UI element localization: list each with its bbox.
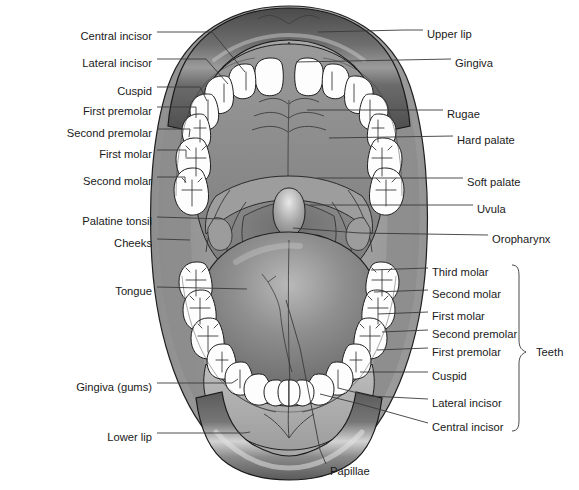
mouth-illustration [151,6,428,480]
label-first-premolar-upper: First premolar [83,105,152,117]
label-lateral-incisor-upper: Lateral incisor [82,57,152,69]
label-central-incisor-lower: Central incisor [432,421,504,433]
label-uvula: Uvula [477,203,506,215]
label-second-premolar-lower: Second premolar [432,328,517,340]
label-upper-lip: Upper lip [427,28,472,40]
label-lower-lip: Lower lip [107,431,152,443]
label-first-premolar-lower: First premolar [432,346,501,358]
label-central-incisor-upper: Central incisor [80,30,152,42]
tooth-upper-second-molar-right [369,168,404,215]
label-papillae: Papillae [330,465,370,477]
label-first-molar-lower: First molar [432,310,485,322]
label-soft-palate: Soft palate [467,176,521,188]
teeth-bracket [512,265,526,431]
tooth-upper-central-incisor-right [295,58,324,96]
label-cheeks: Cheeks [114,237,152,249]
tooth-upper-second-molar-left [174,168,209,215]
label-oropharynx: Oropharynx [492,233,551,245]
tooth-upper-central-incisor-left [255,58,284,96]
label-cuspid-upper: Cuspid [117,85,152,97]
label-gingiva: Gingiva [455,57,494,69]
labels-left-text: Central incisor Lateral incisor Cuspid F… [67,30,153,443]
label-palatine-tonsil: Palatine tonsil [82,215,152,227]
label-second-premolar-upper: Second premolar [67,127,152,139]
labels-right-text: Upper lip Gingiva Rugae Hard palate Soft… [427,28,551,433]
label-tongue: Tongue [115,285,152,297]
label-rugae: Rugae [447,108,480,120]
label-gingiva-gums: Gingiva (gums) [76,381,152,393]
label-first-molar-upper: First molar [99,148,152,160]
label-cuspid-lower: Cuspid [432,370,467,382]
oral-cavity-diagram: Central incisor Lateral incisor Cuspid F… [0,0,579,490]
label-teeth-bracket: Teeth [536,346,563,358]
label-third-molar-lower: Third molar [432,266,489,278]
label-hard-palate: Hard palate [457,134,515,146]
label-lateral-incisor-lower: Lateral incisor [432,397,502,409]
label-second-molar-lower: Second molar [432,288,501,300]
label-second-molar-upper: Second molar [83,175,152,187]
